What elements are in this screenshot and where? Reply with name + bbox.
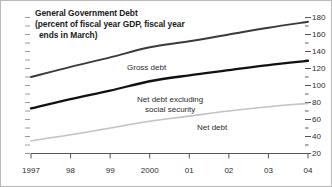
y-axis-tick-label: 80 <box>312 99 321 107</box>
series-label-net-debt-excluding-social-security: Net debt excluding social security <box>137 95 203 114</box>
series-label-line-1: Net debt excluding <box>137 95 203 104</box>
series-label-net-debt: Net debt <box>197 123 227 133</box>
x-axis-tick-label: 01 <box>174 167 204 175</box>
y-axis-tick-label: 100 <box>312 82 325 90</box>
y-axis-tick-label: 60 <box>312 116 321 124</box>
y-axis-tick-label: 140 <box>312 48 325 56</box>
y-axis-ticks-left <box>25 18 30 154</box>
x-axis-tick-label: 2000 <box>135 167 165 175</box>
y-axis-ticks-right <box>305 18 311 154</box>
y-axis-tick-label: 40 <box>312 133 321 141</box>
x-axis-tick-label: 98 <box>56 167 86 175</box>
x-axis-tick-label: 1997 <box>16 167 46 175</box>
chart-title-line-3: ends in March) <box>35 30 250 41</box>
chart-title-line-2: (percent of fiscal year GDP, fiscal year <box>35 19 250 30</box>
x-axis-tick-label: 04 <box>293 167 323 175</box>
series-label-gross-debt: Gross debt <box>127 63 166 73</box>
x-axis-tick-label: 99 <box>95 167 125 175</box>
y-axis-tick-label: 120 <box>312 65 325 73</box>
chart-title-line-1: General Government Debt <box>35 8 250 19</box>
x-axis-ticks <box>31 154 308 159</box>
chart-figure: General Government Debt (percent of fisc… <box>0 0 332 187</box>
chart-title: General Government Debt (percent of fisc… <box>35 8 250 42</box>
y-axis-tick-label: 20 <box>312 150 321 158</box>
series-label-line-2: social security <box>145 105 195 114</box>
x-axis-tick-label: 02 <box>214 167 244 175</box>
y-axis-tick-label: 180 <box>312 14 325 22</box>
x-axis-tick-label: 03 <box>253 167 283 175</box>
y-axis-tick-label: 160 <box>312 31 325 39</box>
